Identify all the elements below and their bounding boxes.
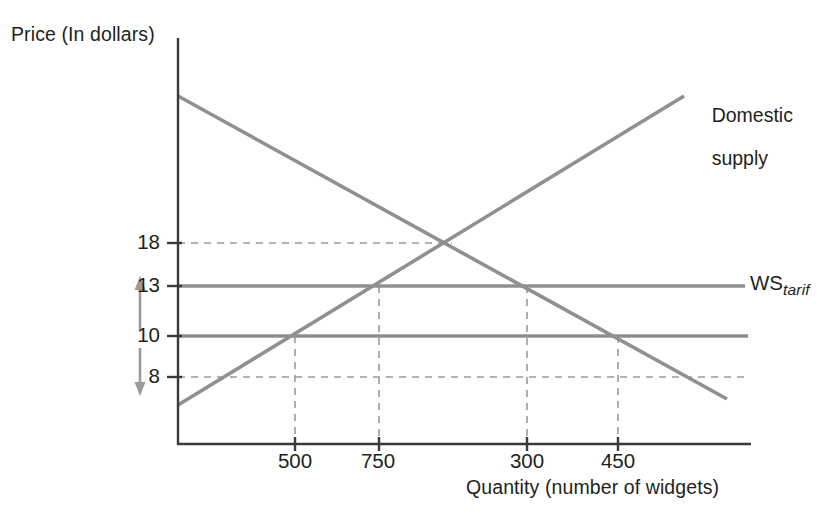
ws-tarif-label-subscript: tarif [783,281,810,298]
y-axis-title: Price (In dollars) [11,24,155,46]
x-tick-label-500: 500 [260,450,330,473]
y-tick-label-13: 13 [114,274,160,297]
y-tick-label-18: 18 [114,231,160,254]
chart-plot-area [0,0,835,519]
data-curves [178,96,748,405]
y-axis-ticks [167,243,182,377]
y-tick-label-8: 8 [114,365,160,388]
x-tick-label-300: 300 [492,450,562,473]
x-tick-label-450: 450 [583,450,653,473]
domestic-supply-label-line2: supply [712,147,768,169]
domestic-supply-label: Domestic supply [690,83,793,192]
x-tick-label-750: 750 [343,450,413,473]
dashed-guides [178,243,747,444]
domestic-supply-curve [178,96,684,405]
x-axis-title: Quantity (number of widgets) [466,477,719,499]
axes [177,38,751,445]
ws-tarif-label: WStarif [750,272,810,298]
y-tick-label-10: 10 [114,324,160,347]
ws-tarif-label-main: WS [750,271,783,294]
supply-demand-tariff-figure: Price (In dollars) Quantity (number of w… [0,0,835,519]
domestic-supply-label-line1: Domestic [712,104,793,126]
